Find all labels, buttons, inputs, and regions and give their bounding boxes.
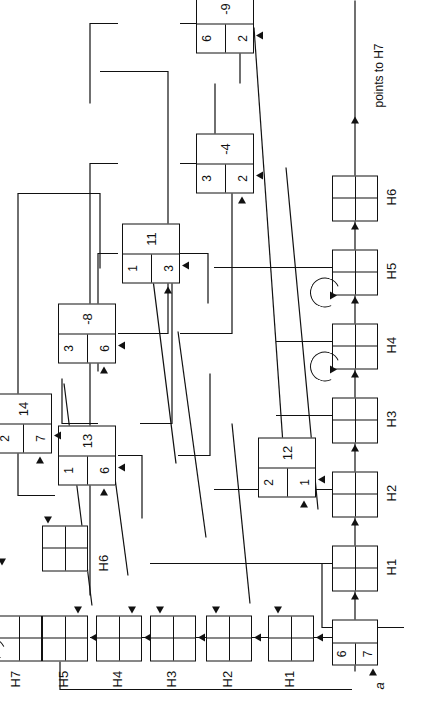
bucket-self-loop-arrow-h7 <box>0 653 1 661</box>
bucket-box-h6 <box>42 525 88 571</box>
chain-arrow-6 <box>351 222 359 229</box>
bucket-out-arrow-h4 <box>128 606 136 613</box>
bucket-out-arrow-h2 <box>212 606 220 613</box>
chain-arrow-1 <box>351 592 359 599</box>
header-cell-h6 <box>332 175 378 221</box>
data-node-27-in-arrow <box>36 456 44 463</box>
bucket-h7-in-arrow <box>0 558 6 565</box>
bucket-in-arrow-h2 <box>254 633 261 641</box>
data-node-32-up-arrow <box>256 171 263 179</box>
data-node-27: 2 7 14 <box>0 393 52 453</box>
diagram-canvas: 6 7 a H1 H2 H3 H4 H5 H6 points t <box>0 0 424 723</box>
bucket-in-arrow-h1 <box>316 633 323 641</box>
bucket-box-h1 <box>268 615 314 661</box>
chain-arrow-tail <box>351 116 359 123</box>
start-pointer-label: a <box>372 682 387 689</box>
bucket-in-arrow-h5 <box>90 633 97 641</box>
chain-arrow-4 <box>351 370 359 377</box>
data-node-62: 6 2 -9 <box>196 0 254 53</box>
data-node-21: 2 1 12 <box>258 437 316 497</box>
data-node-27-key: 2 7 <box>0 423 51 452</box>
header-label-h1: H1 <box>384 558 399 575</box>
data-node-16-value: 13 <box>59 426 115 455</box>
bucket-label-h5: H5 <box>56 670 71 687</box>
data-node-36-value: -8 <box>59 304 115 333</box>
data-node-13-in-arrow <box>164 286 172 293</box>
header-cell-h1 <box>332 545 378 591</box>
bucket-in-arrow-h3 <box>198 633 205 641</box>
array-start-key: 6 7 <box>333 642 377 664</box>
bucket-box-h7 <box>0 615 42 661</box>
data-node-62-key: 6 2 <box>197 23 253 52</box>
data-node-13-value: 11 <box>123 224 179 253</box>
bucket-box-h2 <box>206 615 252 661</box>
figure-page: 6 7 a H1 H2 H3 H4 H5 H6 points t <box>0 0 424 723</box>
data-node-27-up-arrow <box>54 431 61 439</box>
bucket-label-h1: H1 <box>282 670 297 687</box>
header-self-loop-arrow-h5 <box>330 291 337 299</box>
data-node-32-value: -4 <box>197 134 253 163</box>
bucket-label-h2: H2 <box>220 670 235 687</box>
data-node-62-up-arrow <box>256 31 263 39</box>
chain-arrow-3 <box>351 444 359 451</box>
bucket-out-arrow-h1 <box>274 606 282 613</box>
bucket-label-h3: H3 <box>164 670 179 687</box>
header-cell-h3 <box>332 397 378 443</box>
array-start-node: 6 7 <box>332 619 378 665</box>
bucket-in-arrow-h4 <box>144 633 151 641</box>
header-self-loop-arrow-h4 <box>330 365 337 373</box>
header-label-h4: H4 <box>384 336 399 353</box>
data-node-62-value: -9 <box>197 0 253 23</box>
header-label-h2: H2 <box>384 484 399 501</box>
chain-arrow-5 <box>351 296 359 303</box>
bucket-box-h4 <box>96 615 142 661</box>
data-node-32-in-arrow <box>238 196 246 203</box>
data-node-32: 3 2 -4 <box>196 133 254 193</box>
data-node-36-up-arrow <box>118 341 125 349</box>
data-node-21-in-arrow <box>300 500 308 507</box>
bucket-box-h3 <box>150 615 196 661</box>
header-cell-h2 <box>332 471 378 517</box>
start-pointer-arrow <box>369 668 377 675</box>
bucket-box-h5 <box>42 615 88 661</box>
header-label-h3: H3 <box>384 410 399 427</box>
chain-arrow-2 <box>351 518 359 525</box>
data-node-32-key: 3 2 <box>197 163 253 192</box>
data-node-16-in-arrow <box>100 488 108 495</box>
data-node-21-value: 12 <box>259 438 315 467</box>
bucket-out-arrow-h3 <box>156 606 164 613</box>
header-label-h6: H6 <box>384 188 399 205</box>
data-node-27-value: 14 <box>0 394 51 423</box>
data-node-36: 3 6 -8 <box>58 303 116 363</box>
bucket-out-arrow-h5 <box>74 606 82 613</box>
data-node-13: 1 3 11 <box>122 223 180 283</box>
data-node-21-key: 2 1 <box>259 467 315 496</box>
data-node-21-up-arrow <box>318 475 325 483</box>
header-label-h5: H5 <box>384 262 399 279</box>
data-node-13-up-arrow <box>182 261 189 269</box>
data-node-16-up-arrow <box>118 463 125 471</box>
bucket-label-h7: H7 <box>8 670 23 687</box>
data-node-16: 1 6 13 <box>58 425 116 485</box>
data-node-13-key: 1 3 <box>123 253 179 282</box>
bucket-label-h4: H4 <box>110 670 125 687</box>
bucket-h6-in-arrow <box>44 516 52 523</box>
array-start-value <box>333 620 377 642</box>
bucket-label-h6: H6 <box>96 554 111 571</box>
data-node-36-in-arrow <box>100 366 108 373</box>
data-node-36-key: 3 6 <box>59 333 115 362</box>
tail-note: points to H7 <box>372 43 386 107</box>
data-node-16-key: 1 6 <box>59 455 115 484</box>
